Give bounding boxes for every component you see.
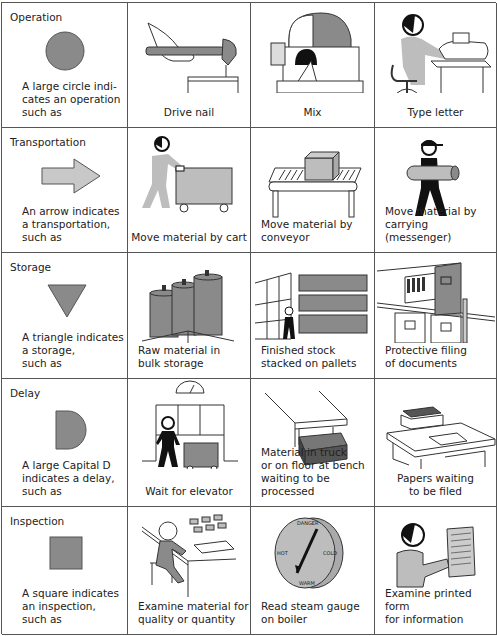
category-description: A square indicates an inspection, such a… [22,587,119,626]
category-title: Storage [10,261,51,273]
elevator-icon [128,379,250,467]
example-cell: Material in truck or on floor at bench w… [251,379,375,507]
example-caption: Protective filing of documents [375,344,496,370]
cart-pusher-icon [128,128,250,216]
process-symbols-chart: Operation A large circle indi- cates an … [1,2,496,634]
delay-d-shape-icon [54,409,88,451]
inspector-bench-icon [128,507,250,595]
example-cell: Wait for elevator [128,379,251,507]
example-caption: Papers waiting to be filed [375,472,496,498]
example-cell: Move material by carrying (messenger) [375,128,497,253]
category-description: A large Capital D indicates a delay, suc… [22,459,115,498]
steam-gauge-icon: DANGER HOT COLD WARM [251,507,374,595]
example-cell: Papers waiting to be filed [375,379,497,507]
example-cell: Raw material in bulk storage [128,253,251,379]
messenger-icon [375,128,496,216]
example-cell: Type letter [375,3,497,128]
example-cell: Examine material for quality or quantity [128,507,251,635]
example-caption: Type letter [375,106,496,119]
category-title: Inspection [10,515,64,527]
filing-cabinet-icon [375,253,496,341]
category-cell-inspection: Inspection A square indicates an inspect… [2,507,128,635]
form-reader-icon [375,507,496,595]
storage-triangle-icon [46,283,88,319]
operation-circle-icon [45,31,85,71]
hammer-nail-icon [128,3,250,91]
example-caption: Read steam gauge on boiler [251,600,374,626]
category-title: Delay [10,387,40,399]
typist-icon [375,3,496,91]
category-title: Transportation [10,136,86,148]
example-cell: Move material by conveyor [251,128,375,253]
desk-papers-icon [375,379,496,467]
conveyor-icon [251,128,374,216]
example-caption: Finished stock stacked on pallets [251,344,374,370]
category-title: Operation [10,11,62,23]
example-caption: Move material by carrying (messenger) [375,205,496,244]
example-caption: Raw material in bulk storage [128,344,250,370]
category-description: A large circle indi- cates an operation … [22,80,120,119]
example-cell: Finished stock stacked on pallets [251,253,375,379]
category-description: A triangle indicates a storage, such as [22,331,124,370]
transportation-arrow-icon [40,158,102,194]
category-cell-transportation: Transportation An arrow indicates a tran… [2,128,128,253]
mixer-machine-icon [251,3,374,91]
gauge-label-warm: WARM [299,580,315,586]
pallets-icon [251,253,374,341]
example-cell: Drive nail [128,3,251,128]
example-caption: Move material by conveyor [251,218,374,244]
silos-icon [128,253,250,341]
example-caption: Material in truck or on floor at bench w… [251,446,374,498]
example-caption: Examine printed form for information [375,587,496,626]
example-caption: Wait for elevator [128,485,250,498]
category-cell-delay: Delay A large Capital D indicates a dela… [2,379,128,507]
category-cell-storage: Storage A triangle indicates a storage, … [2,253,128,379]
example-cell: DANGER HOT COLD WARM Read steam gauge on… [251,507,375,635]
example-cell: Mix [251,3,375,128]
example-cell: Protective filing of documents [375,253,497,379]
example-caption: Drive nail [128,106,250,119]
example-cell: Move material by cart [128,128,251,253]
example-cell: Examine printed form for information [375,507,497,635]
gauge-label-danger: DANGER [297,520,319,526]
gauge-label-cold: COLD [323,550,337,556]
inspection-square-icon [48,535,84,571]
category-description: An arrow indicates a transportation, suc… [22,205,120,244]
example-caption: Mix [251,106,374,119]
gauge-label-hot: HOT [277,550,289,556]
category-cell-operation: Operation A large circle indi- cates an … [2,3,128,128]
example-caption: Move material by cart [128,231,250,244]
example-caption: Examine material for quality or quantity [128,600,250,626]
